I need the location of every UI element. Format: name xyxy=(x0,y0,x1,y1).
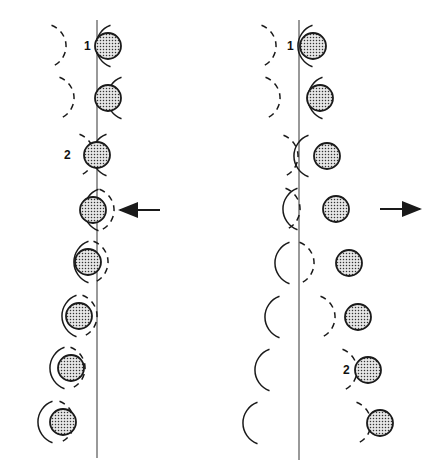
row-6 xyxy=(265,296,371,337)
solid-wavefront xyxy=(265,296,280,337)
row-1: 1 xyxy=(52,25,122,66)
row-3: 2 xyxy=(64,134,110,175)
stippled-ball xyxy=(58,355,84,381)
row-1: 1 xyxy=(262,25,327,66)
row-2 xyxy=(60,77,122,118)
stippled-ball xyxy=(84,142,110,168)
dashed-wavefront xyxy=(262,25,277,66)
stippled-ball xyxy=(355,357,381,383)
position-label: 2 xyxy=(64,148,71,162)
dashed-wavefront xyxy=(60,77,75,118)
position-label: 1 xyxy=(287,39,294,53)
stippled-ball xyxy=(323,196,349,222)
solid-wavefront xyxy=(275,242,290,283)
stippled-ball xyxy=(314,143,340,169)
position-label: 1 xyxy=(84,39,91,53)
panel-left: 12 xyxy=(38,20,160,458)
stippled-ball xyxy=(50,409,76,435)
stippled-ball xyxy=(66,303,92,329)
dashed-wavefront xyxy=(284,135,299,176)
stippled-ball xyxy=(95,33,121,59)
stippled-ball xyxy=(95,85,121,111)
row-3 xyxy=(284,135,341,176)
dashed-wavefront xyxy=(266,77,281,118)
row-6 xyxy=(62,295,97,336)
stippled-ball xyxy=(75,249,101,275)
stippled-ball xyxy=(307,85,333,111)
stippled-ball xyxy=(345,304,371,330)
row-5 xyxy=(275,242,362,283)
solid-wavefront xyxy=(294,135,309,176)
panel-right: 12 xyxy=(243,20,420,460)
stippled-ball xyxy=(300,33,326,59)
dashed-wavefront xyxy=(300,242,315,283)
dashed-wavefront xyxy=(321,296,336,337)
stippled-ball xyxy=(367,410,393,436)
row-7: 2 xyxy=(255,349,381,390)
row-8 xyxy=(38,401,76,442)
row-7 xyxy=(50,347,85,388)
row-4 xyxy=(283,188,349,229)
row-5 xyxy=(74,241,108,282)
stippled-ball xyxy=(80,197,106,223)
solid-wavefront xyxy=(255,349,270,390)
position-label: 2 xyxy=(343,363,350,377)
solid-wavefront xyxy=(243,402,258,443)
wave-reflection-diagram: 1212 xyxy=(0,0,430,468)
stippled-ball xyxy=(336,250,362,276)
dashed-wavefront xyxy=(52,25,67,66)
row-8 xyxy=(243,402,393,443)
